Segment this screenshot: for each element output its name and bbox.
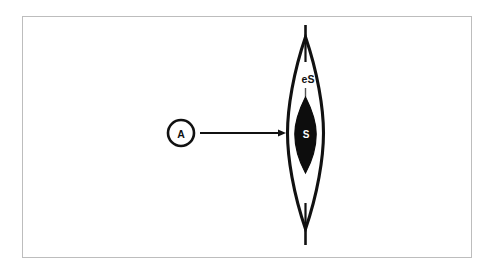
source-label-A: A — [177, 128, 185, 140]
figure-root: A eS S — [0, 0, 493, 273]
inner-region-label-S: S — [303, 129, 310, 140]
diagram-canvas: A eS S — [0, 0, 493, 273]
outer-region-label-eS: eS — [302, 73, 315, 85]
arrow-head-icon — [278, 130, 286, 137]
